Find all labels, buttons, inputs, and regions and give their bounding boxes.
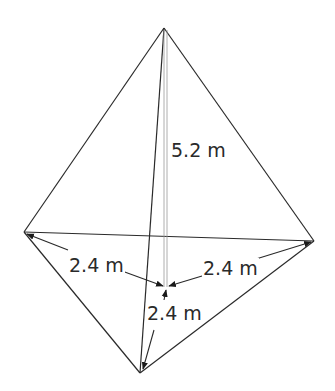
arrow-to-center-from-bottom xyxy=(164,290,166,300)
arrow-right-to-center xyxy=(169,276,202,286)
bottom-distance-label: 2.4 m xyxy=(146,303,203,323)
left-distance-label: 2.4 m xyxy=(68,255,125,275)
edge-apex-right xyxy=(164,28,314,241)
right-distance-label: 2.4 m xyxy=(202,258,259,278)
edge-apex-left xyxy=(24,28,164,232)
height-line xyxy=(164,30,167,287)
arrow-to-left-vertex xyxy=(27,234,68,250)
height-label: 5.2 m xyxy=(170,140,227,160)
edge-left-right xyxy=(24,232,314,241)
pyramid-diagram xyxy=(0,0,335,391)
arrow-left-to-center xyxy=(122,271,163,286)
arrow-to-right-vertex xyxy=(256,242,311,259)
